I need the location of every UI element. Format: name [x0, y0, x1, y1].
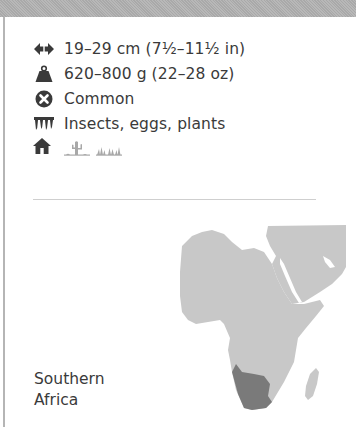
fact-diet: Insects, eggs, plants	[33, 111, 245, 136]
weight-icon	[33, 65, 55, 83]
region-label-line2: Africa	[34, 390, 105, 411]
size-text: 19–29 cm (7½–11½ in)	[64, 40, 245, 58]
weight-text: 620–800 g (22–28 oz)	[64, 65, 234, 83]
house-icon	[33, 138, 55, 158]
fact-status: Common	[33, 86, 245, 111]
section-divider	[33, 199, 316, 200]
region-label-line1: Southern	[34, 369, 105, 390]
circle-x-icon	[33, 90, 55, 108]
diet-text: Insects, eggs, plants	[64, 115, 225, 133]
madagascar-landmass	[305, 368, 319, 400]
fact-list: 19–29 cm (7½–11½ in) 620–800 g (22–28 oz…	[33, 36, 245, 159]
region-label: Southern Africa	[34, 369, 105, 411]
top-border-bar	[0, 0, 356, 17]
double-arrow-icon	[33, 40, 55, 58]
fact-weight: 620–800 g (22–28 oz)	[33, 61, 245, 86]
left-border-rule	[3, 17, 5, 427]
desert-cactus-icon	[64, 140, 90, 156]
status-text: Common	[64, 90, 134, 108]
fact-size: 19–29 cm (7½–11½ in)	[33, 36, 245, 61]
range-map	[180, 212, 356, 427]
teeth-icon	[33, 115, 55, 133]
fact-habitat	[33, 137, 245, 159]
grassland-icon	[96, 140, 122, 156]
